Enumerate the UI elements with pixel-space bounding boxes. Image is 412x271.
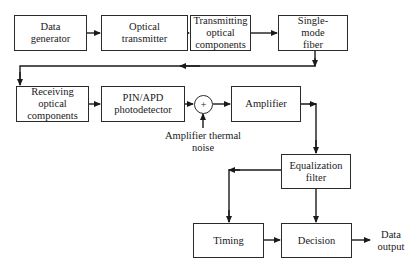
label-data-output: Data output bbox=[371, 229, 411, 253]
arrow-equalizer-to-timing bbox=[229, 170, 281, 222]
block-single-mode-fiber: Single- mode fiber bbox=[278, 15, 348, 51]
block-receiving-optical-components: Receiving optical components bbox=[16, 86, 89, 122]
block-decision: Decision bbox=[281, 223, 352, 258]
block-label: Decision bbox=[298, 235, 335, 247]
arrow-fiber-to-receiver bbox=[20, 50, 315, 85]
block-label: Amplifier bbox=[245, 98, 286, 110]
label-amplifier-thermal-noise: Amplifier thermal noise bbox=[148, 130, 258, 154]
block-label: Receiving optical components bbox=[27, 86, 78, 122]
block-pin-apd-photodetector: PIN/APD photodetector bbox=[101, 86, 185, 122]
block-label: Equalization filter bbox=[289, 160, 342, 184]
block-label: Transmitting optical components bbox=[194, 15, 248, 51]
block-label: Single- mode fiber bbox=[298, 15, 328, 51]
block-label: PIN/APD photodetector bbox=[114, 92, 172, 116]
block-optical-transmitter: Optical transmitter bbox=[101, 15, 188, 51]
block-data-generator: Data generator bbox=[14, 15, 87, 51]
block-label: Optical transmitter bbox=[122, 21, 168, 45]
summing-junction: + bbox=[194, 95, 213, 114]
block-label: Data generator bbox=[31, 21, 71, 45]
block-amplifier: Amplifier bbox=[231, 86, 301, 122]
block-transmitting-optical-components: Transmitting optical components bbox=[190, 15, 251, 51]
block-timing: Timing bbox=[193, 223, 264, 258]
plus-icon: + bbox=[201, 100, 207, 110]
block-equalization-filter: Equalization filter bbox=[281, 154, 351, 189]
block-label: Timing bbox=[213, 235, 244, 247]
arrow-amplifier-to-equalizer bbox=[301, 104, 316, 153]
